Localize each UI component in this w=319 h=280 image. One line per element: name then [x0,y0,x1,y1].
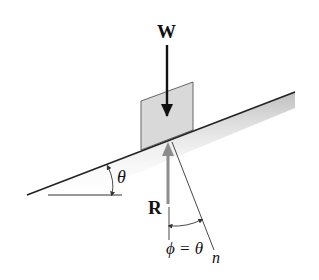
incline-diagram: W R θ ϕ = θ n [0,0,319,280]
normal-line [172,142,214,250]
normal-label: n [212,250,220,266]
diagram-graphics [0,0,319,280]
phi-equation-label: ϕ = θ [166,240,203,257]
phi-arc-icon [170,220,201,226]
weight-label: W [157,22,176,41]
reaction-label: R [148,198,162,217]
incline-angle-label: θ [117,168,126,186]
